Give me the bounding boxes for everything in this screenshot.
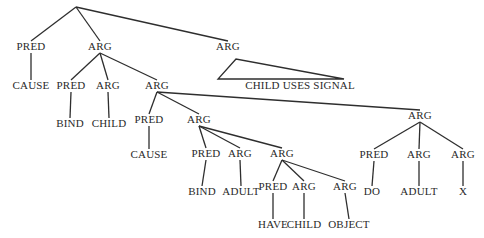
tree-edge [374,122,420,149]
tree-node-label: ARG [270,147,294,159]
tree-node-label: HAVE [258,218,288,230]
tree-node-label: ARG [88,40,112,52]
tree-edge [282,160,345,181]
tree-node-label: PRED [17,40,46,52]
tree-node-label: ARG [408,109,432,121]
tree-node-label: OBJECT [328,218,370,230]
tree-node-label: PRED [259,180,288,192]
tree-node-label: DO [364,185,380,197]
tree-edge [345,193,349,219]
tree-diagram: PREDARGARGCAUSECHILD USES SIGNALPREDARGA… [0,0,484,238]
tree-edge [149,92,157,114]
tree-edge [273,160,282,181]
tree-edge [240,160,241,186]
tree-node-label: BIND [56,117,84,129]
tree-edge [76,7,228,41]
tree-edge [419,122,420,149]
tree-node-label: PRED [135,113,164,125]
tree-node-label: PRED [192,147,221,159]
tree-node-label: ARG [451,148,475,160]
tree-edge [157,92,420,110]
tree-edge [420,122,463,149]
tree-edge [199,126,282,148]
tree-edge [70,92,71,118]
tree-node-label: PRED [360,148,389,160]
tree-node-label: CHILD [92,117,127,129]
tree-node-label: ADULT [400,185,437,197]
tree-edge [100,53,108,80]
tree-node-label: CHILD USES SIGNAL [245,79,355,91]
collapsed-subtree-triangle [218,59,344,79]
tree-node-label: PRED [57,79,86,91]
tree-node-label: X [459,185,467,197]
tree-edge [71,53,100,80]
tree-labels: PREDARGARGCAUSECHILD USES SIGNALPREDARGA… [12,40,474,230]
tree-node-label: ARG [333,180,357,192]
tree-edge [108,92,109,118]
tree-node-label: ARG [145,79,169,91]
tree-node-label: ARG [292,180,316,192]
tree-edge [100,53,157,80]
tree-node-label: CHILD [287,218,322,230]
tree-node-label: CAUSE [130,148,167,160]
tree-node-label: ARG [96,79,120,91]
tree-node-label: ARG [228,147,252,159]
tree-node-label: CAUSE [12,79,49,91]
tree-edge [372,161,374,186]
tree-edge [31,7,76,41]
tree-edge [202,160,206,186]
tree-node-label: BIND [188,185,216,197]
tree-node-label: ARG [187,113,211,125]
tree-node-label: ADULT [222,185,259,197]
tree-node-label: ARG [216,40,240,52]
tree-node-label: ARG [407,148,431,160]
tree-edge [157,92,199,114]
